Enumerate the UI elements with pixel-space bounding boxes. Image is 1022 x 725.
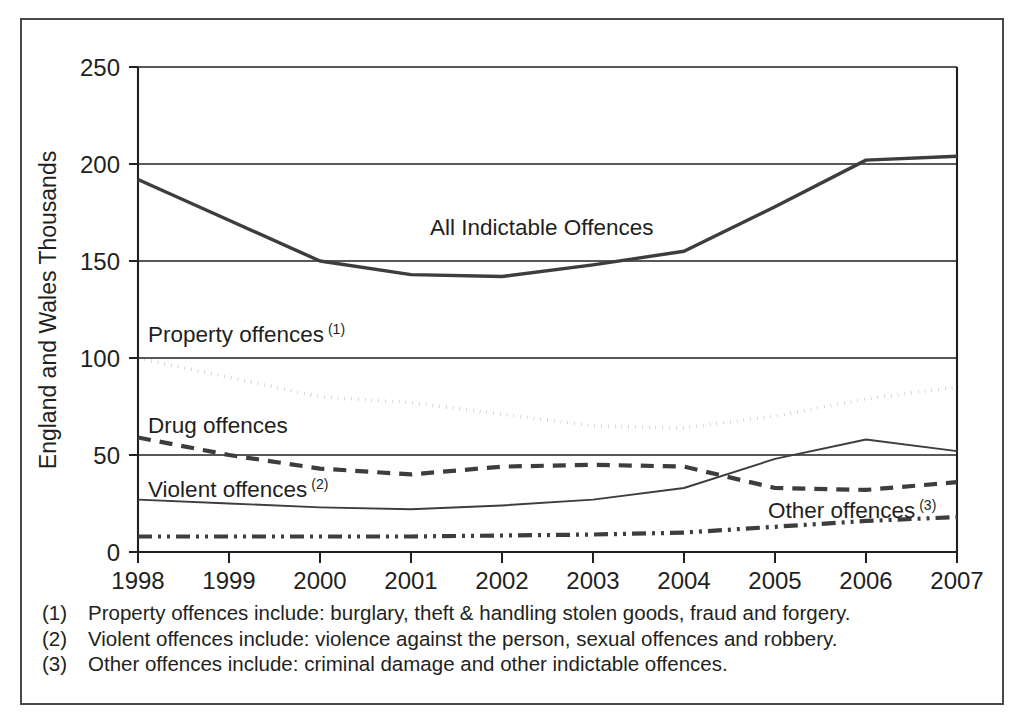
y-tick-label: 150 [80, 248, 120, 275]
x-tick-label: 2002 [475, 567, 528, 594]
footnote-item: (2) Violent offences include: violence a… [42, 626, 972, 652]
series-label-all-indictable-offences: All Indictable Offences [430, 215, 653, 240]
y-tick-labels: 050100150200250 [80, 54, 120, 566]
y-tick-label: 200 [80, 151, 120, 178]
footnote-marker: (3) [42, 651, 88, 677]
x-tick-label: 2007 [930, 567, 983, 594]
x-tick-label: 1998 [111, 567, 164, 594]
series-label-violent-offences: Violent offences(2) [148, 476, 328, 502]
series-label-other-offences: Other offences(3) [768, 497, 936, 523]
series-label-property-offences: Property offences(1) [148, 321, 345, 347]
x-tick-label: 2003 [566, 567, 619, 594]
footnote-text: Property offences include: burglary, the… [88, 600, 972, 626]
footnote-marker: (2) [42, 626, 88, 652]
footnote-text: Other offences include: criminal damage … [88, 651, 972, 677]
x-tick-label: 2001 [384, 567, 437, 594]
x-tick-label: 2000 [293, 567, 346, 594]
footnote-list: (1) Property offences include: burglary,… [42, 600, 972, 677]
footnote-marker: (1) [42, 600, 88, 626]
y-tick-label: 250 [80, 54, 120, 81]
series-label-drug-offences: Drug offences [148, 413, 288, 438]
y-axis-title: England and Wales Thousands [35, 151, 61, 469]
y-tick-label: 0 [107, 539, 120, 566]
x-tick-label: 2005 [748, 567, 801, 594]
x-tick-labels: 1998199920002001200220032004200520062007 [111, 567, 983, 594]
x-tick-label: 1999 [202, 567, 255, 594]
y-tick-label: 50 [93, 442, 120, 469]
x-tick-label: 2004 [657, 567, 710, 594]
x-tick-label: 2006 [839, 567, 892, 594]
figure-root: 050100150200250 199819992000200120022003… [0, 0, 1022, 725]
footnote-item: (1) Property offences include: burglary,… [42, 600, 972, 626]
y-tick-label: 100 [80, 345, 120, 372]
footnote-text: Violent offences include: violence again… [88, 626, 972, 652]
footnote-item: (3) Other offences include: criminal dam… [42, 651, 972, 677]
